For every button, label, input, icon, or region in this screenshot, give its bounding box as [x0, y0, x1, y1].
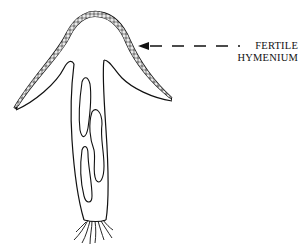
stalk-left-wall	[71, 64, 84, 220]
hymenium-inner-edge	[18, 16, 170, 106]
label-hymenium: HYMENIUM	[228, 52, 298, 63]
cap-underside-right	[104, 60, 172, 101]
rhizoids	[74, 220, 113, 244]
cavity-middle	[90, 110, 104, 182]
internal-cavities	[79, 78, 104, 202]
cavity-lower	[81, 147, 92, 202]
hymenium-outer-edge	[14, 12, 172, 108]
fungus-diagram	[0, 0, 298, 247]
hymenium-hatching	[14, 12, 172, 108]
cap	[14, 12, 172, 110]
stalk-right-wall	[103, 60, 108, 220]
cavity-upper	[79, 78, 91, 137]
label-fertile: FERTILE	[238, 40, 298, 51]
arrow-head-icon	[138, 42, 149, 50]
label-leader	[138, 42, 240, 50]
